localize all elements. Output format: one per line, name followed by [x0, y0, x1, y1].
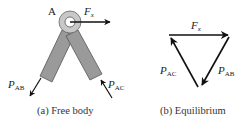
- force-fx-label: Fx: [83, 5, 95, 19]
- triangle-fx-label: Fx: [190, 19, 202, 33]
- joint-label: A: [48, 5, 56, 17]
- triangle-pac-label: PAC: [159, 64, 177, 78]
- caption-equilibrium: (b) Equilibrium: [160, 105, 226, 117]
- force-pab-arrow: [30, 78, 41, 96]
- member-ac: [66, 30, 102, 80]
- force-pab-label: PAB: [7, 78, 25, 92]
- caption-free-body: (a) Free body: [37, 105, 94, 117]
- force-pac-label: PAC: [107, 78, 125, 92]
- triangle-pac-arrow: [171, 38, 198, 87]
- triangle-pab-label: PAB: [217, 64, 235, 78]
- free-body-panel: A Fx PAB PAC (a) Free body: [7, 5, 125, 117]
- figure-canvas: A Fx PAB PAC (a) Free body Fx PAB: [0, 0, 245, 125]
- equilibrium-panel: Fx PAB PAC (b) Equilibrium: [159, 19, 235, 117]
